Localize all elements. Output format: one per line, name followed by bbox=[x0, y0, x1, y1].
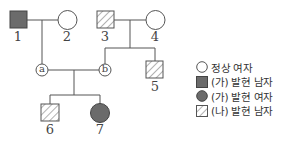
legend-label: (나) 발현 남자 bbox=[211, 103, 273, 118]
individual-6-label: 6 bbox=[46, 123, 54, 136]
individual-5-square bbox=[146, 61, 163, 78]
individual-7-circle bbox=[91, 104, 110, 123]
individual-6-square bbox=[41, 104, 59, 121]
legend-label: (가) 발현 남자 bbox=[211, 74, 273, 89]
legend: 정상 여자 (가) 발현 남자 (가) 발현 여자 (나) 발현 남자 bbox=[196, 60, 273, 118]
legend-item-ga-male: (가) 발현 남자 bbox=[196, 75, 273, 90]
legend-item-ga-female: (가) 발현 여자 bbox=[196, 89, 273, 104]
individual-2-circle bbox=[58, 11, 77, 30]
legend-label: 정상 여자 bbox=[211, 60, 253, 75]
marker-a-label: a bbox=[39, 64, 45, 74]
individual-1-label: 1 bbox=[14, 30, 22, 43]
individual-2-label: 2 bbox=[63, 30, 71, 43]
marker-b-label: b bbox=[102, 64, 108, 74]
filled-circle-icon bbox=[196, 90, 208, 102]
hatched-square-icon bbox=[196, 105, 208, 117]
open-circle-icon bbox=[196, 61, 208, 73]
individual-3-square bbox=[97, 11, 114, 28]
individual-7-label: 7 bbox=[96, 123, 104, 136]
individual-5-label: 5 bbox=[151, 80, 159, 93]
legend-label: (가) 발현 여자 bbox=[211, 89, 273, 104]
individual-4-label: 4 bbox=[151, 30, 159, 43]
filled-square-icon bbox=[196, 76, 208, 88]
individual-4-circle bbox=[146, 11, 165, 30]
individual-1-square bbox=[10, 11, 27, 28]
individual-3-label: 3 bbox=[101, 30, 109, 43]
legend-item-normal-female: 정상 여자 bbox=[196, 60, 273, 75]
legend-item-na-male: (나) 발현 남자 bbox=[196, 104, 273, 119]
